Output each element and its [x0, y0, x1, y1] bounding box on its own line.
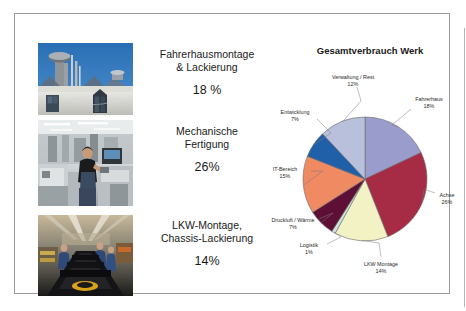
caption-percent: 18 %: [141, 83, 273, 98]
pie-slice-group: [303, 117, 427, 241]
pie-label-logistik: Logistik1%: [300, 242, 319, 255]
caption-percent: 26%: [141, 160, 273, 175]
pie-label-entwicklung: Entwicklung7%: [281, 109, 310, 122]
photo-machining-worker: [38, 120, 133, 206]
pie-label-achse: Achse26%: [440, 192, 455, 205]
caption-title: Fahrerhausmontage & Lackierung: [141, 48, 273, 74]
caption-percent: 14%: [141, 254, 273, 269]
caption-block-mechanische-fertigung: Mechanische Fertigung 26%: [141, 125, 273, 175]
vertical-rule: [464, 28, 465, 307]
pie-leader-line: [361, 240, 381, 257]
pie-label-lkw-montage: LKW Montage14%: [364, 261, 398, 274]
pie-chart: Fahrerhaus18%Achse26%LKW Montage14%Logis…: [261, 61, 465, 293]
slide-canvas: Fahrerhausmontage & Lackierung 18 % Mech…: [0, 0, 466, 311]
pie-label-it-bereich: IT-Bereich15%: [273, 166, 298, 179]
chart-title: Gesamtverbrauch Werk: [285, 45, 455, 56]
pie-label-fahrerhaus: Fahrerhaus18%: [415, 96, 443, 109]
caption-title: Mechanische Fertigung: [141, 125, 273, 151]
slide-frame: Fahrerhausmontage & Lackierung 18 % Mech…: [14, 13, 450, 294]
caption-block-lkw-montage: LKW-Montage, Chassis-Lackierung 14%: [141, 219, 273, 269]
photo-assembly-line: [38, 215, 133, 296]
photo-rooftop-ventilation-plant: [38, 43, 133, 115]
caption-title: LKW-Montage, Chassis-Lackierung: [141, 219, 273, 245]
pie-label-verwaltung-rest: Verwaltung / Rest12%: [332, 74, 375, 87]
caption-block-fahrerhausmontage: Fahrerhausmontage & Lackierung 18 %: [141, 48, 273, 98]
pie-leader-line: [342, 87, 361, 122]
pie-label-druckluft-w-rme: Druckluft / Wärme7%: [271, 217, 314, 230]
